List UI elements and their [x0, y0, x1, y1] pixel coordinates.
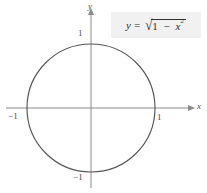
radicand-minus-sign: − [164, 20, 170, 32]
x-tick-label-negative-one: −1 [8, 112, 18, 121]
math-figure-unit-circle: −1 1 1 −1 x y y = √ 1 − x2 [0, 0, 207, 193]
x-axis-label: x [197, 102, 201, 111]
radical-surd-glyph: √ [145, 17, 152, 32]
square-root-icon: √ 1 − x2 [145, 19, 186, 32]
equation-expression: y = √ 1 − x2 [126, 19, 186, 32]
equation-annotation-box: y = √ 1 − x2 [111, 12, 201, 38]
x-axis-arrowhead [188, 105, 195, 111]
y-tick-label-positive-one: 1 [78, 29, 83, 38]
radicand-exponent: 2 [180, 17, 184, 25]
equation-equals-sign: = [134, 20, 140, 31]
radicand-constant: 1 [152, 20, 158, 32]
y-axis-label: y [88, 2, 92, 11]
x-tick-label-positive-one: 1 [157, 113, 162, 122]
y-tick-label-negative-one: −1 [73, 173, 83, 182]
equation-lhs: y [126, 20, 131, 31]
radicand: 1 − x2 [151, 19, 186, 32]
